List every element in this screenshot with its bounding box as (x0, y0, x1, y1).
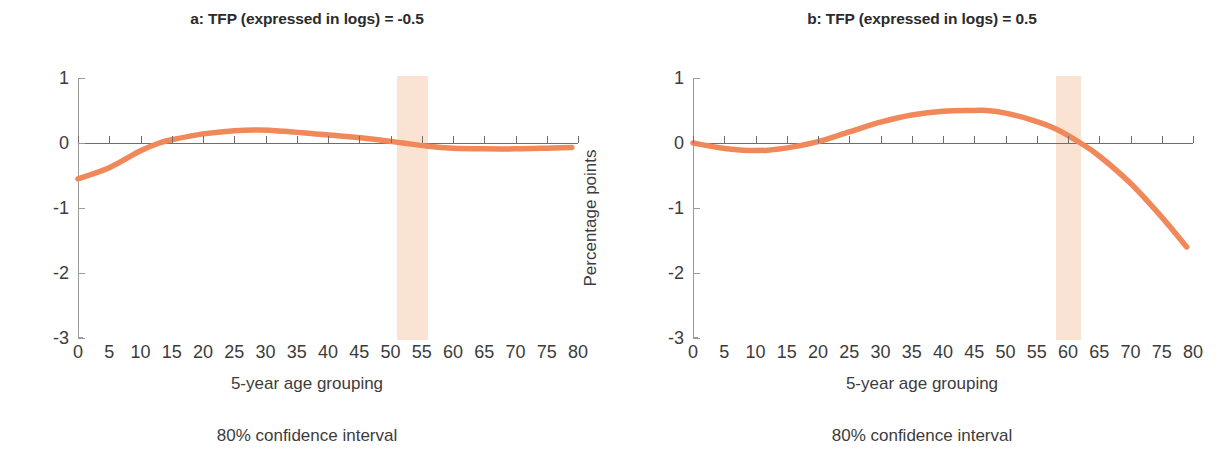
y-axis-tick-label: -3 (53, 328, 69, 349)
y-axis-tick-label: -1 (668, 198, 684, 219)
panel-b-y-axis-title: Percentage points (581, 88, 601, 348)
x-axis-tick (1193, 136, 1194, 143)
x-axis-tick-label: 70 (505, 342, 525, 363)
x-axis-tick (422, 136, 423, 143)
y-axis-tick-label: 1 (674, 68, 684, 89)
x-axis-tick (818, 136, 819, 143)
panel-a-plot-area: Percentage points 10-1-2-305101520253035… (78, 78, 578, 338)
panel-b-title: b: TFP (expressed in logs) = 0.5 (615, 10, 1229, 28)
y-axis-tick-label: -3 (668, 328, 684, 349)
x-axis-tick-label: 15 (162, 342, 182, 363)
y-axis-tick: 1 (693, 78, 700, 79)
x-axis-tick-label: 45 (349, 342, 369, 363)
panel-b-footnote: 80% confidence interval (615, 426, 1229, 446)
y-axis-tick-label: 1 (59, 68, 69, 89)
x-axis-tick (391, 136, 392, 143)
y-axis-tick: 1 (78, 78, 85, 79)
y-axis-tick-label: -2 (53, 263, 69, 284)
x-axis-tick-label: 55 (412, 342, 432, 363)
x-axis-tick-label: 20 (808, 342, 828, 363)
x-axis-tick-label: 50 (380, 342, 400, 363)
x-axis-tick (141, 136, 142, 143)
x-axis-tick-label: 5 (104, 342, 114, 363)
x-axis-tick-label: 65 (474, 342, 494, 363)
y-axis-tick-label: -1 (53, 198, 69, 219)
panel-a: a: TFP (expressed in logs) = -0.5 Percen… (0, 0, 614, 464)
x-axis-tick-label: 5 (719, 342, 729, 363)
y-axis-tick: 0 (78, 143, 85, 144)
x-axis-tick-label: 80 (1183, 342, 1203, 363)
x-axis-tick-label: 65 (1089, 342, 1109, 363)
y-axis-tick: -2 (78, 273, 85, 274)
y-axis-tick: -1 (78, 208, 85, 209)
x-axis-tick-label: 35 (902, 342, 922, 363)
x-axis-tick-label: 75 (537, 342, 557, 363)
x-axis-tick (1099, 136, 1100, 143)
x-axis-tick-label: 60 (443, 342, 463, 363)
panel-b-x-axis-title: 5-year age grouping (615, 374, 1229, 394)
x-axis-tick (1162, 136, 1163, 143)
x-axis-tick-label: 35 (287, 342, 307, 363)
x-axis-tick (756, 136, 757, 143)
x-axis-tick-label: 15 (777, 342, 797, 363)
x-axis-tick-label: 50 (995, 342, 1015, 363)
x-axis-tick (693, 136, 694, 143)
x-axis-tick-label: 70 (1120, 342, 1140, 363)
x-axis-tick (881, 136, 882, 143)
x-axis-tick-label: 10 (745, 342, 765, 363)
x-axis-tick-label: 0 (73, 342, 83, 363)
x-axis-tick (266, 136, 267, 143)
panel-a-x-axis-title: 5-year age grouping (0, 374, 614, 394)
x-axis-tick (974, 136, 975, 143)
panel-b: b: TFP (expressed in logs) = 0.5 Percent… (615, 0, 1229, 464)
x-axis-tick (78, 136, 79, 143)
x-axis-tick (1068, 136, 1069, 143)
x-axis-tick (912, 136, 913, 143)
x-axis-tick (1037, 136, 1038, 143)
y-axis-tick-label: 0 (674, 133, 684, 154)
x-axis-tick (109, 136, 110, 143)
x-axis-tick-label: 0 (688, 342, 698, 363)
panel-b-curve (693, 78, 1193, 338)
x-axis-tick (516, 136, 517, 143)
figure-container: a: TFP (expressed in logs) = -0.5 Percen… (0, 0, 1229, 464)
x-axis-tick (359, 136, 360, 143)
panel-a-curve (78, 78, 578, 338)
x-axis-tick (453, 136, 454, 143)
x-axis-tick (1006, 136, 1007, 143)
x-axis-tick-label: 45 (964, 342, 984, 363)
x-axis-tick (578, 136, 579, 143)
x-axis-tick-label: 25 (839, 342, 859, 363)
x-axis-tick (203, 136, 204, 143)
x-axis-tick (943, 136, 944, 143)
x-axis-tick-label: 30 (255, 342, 275, 363)
x-axis-tick (849, 136, 850, 143)
x-axis-tick (547, 136, 548, 143)
y-axis-tick: -3 (78, 338, 85, 339)
y-axis-tick: -2 (693, 273, 700, 274)
panel-a-footnote: 80% confidence interval (0, 426, 614, 446)
y-axis-tick: -1 (693, 208, 700, 209)
x-axis-tick-label: 60 (1058, 342, 1078, 363)
x-axis-tick-label: 10 (130, 342, 150, 363)
x-axis-tick (724, 136, 725, 143)
y-axis-tick: 0 (693, 143, 700, 144)
x-axis-tick (328, 136, 329, 143)
x-axis-tick (1131, 136, 1132, 143)
x-axis-tick-label: 40 (933, 342, 953, 363)
x-axis-tick-label: 75 (1152, 342, 1172, 363)
panel-a-title: a: TFP (expressed in logs) = -0.5 (0, 10, 614, 28)
x-axis-tick-label: 20 (193, 342, 213, 363)
y-axis-tick-label: 0 (59, 133, 69, 154)
x-axis-tick-label: 30 (870, 342, 890, 363)
x-axis-tick-label: 40 (318, 342, 338, 363)
x-axis-tick-label: 55 (1027, 342, 1047, 363)
x-axis-tick (234, 136, 235, 143)
x-axis-tick (297, 136, 298, 143)
x-axis-tick (787, 136, 788, 143)
x-axis-tick-label: 25 (224, 342, 244, 363)
x-axis-tick (172, 136, 173, 143)
x-axis-tick (484, 136, 485, 143)
panel-b-plot-area: Percentage points 10-1-2-305101520253035… (693, 78, 1193, 338)
y-axis-tick: -3 (693, 338, 700, 339)
